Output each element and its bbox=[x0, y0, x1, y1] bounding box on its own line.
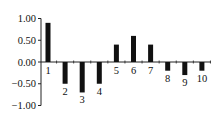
y-tick-label: −1.00 bbox=[12, 100, 36, 111]
bar bbox=[199, 62, 204, 71]
category-label: 10 bbox=[197, 73, 208, 84]
category-label: 7 bbox=[148, 65, 153, 76]
category-label: 2 bbox=[62, 86, 67, 97]
y-tick-label: 0.00 bbox=[18, 57, 36, 68]
bar bbox=[182, 62, 187, 75]
y-tick-label: −0.50 bbox=[12, 78, 36, 89]
y-axis: 1.000.500.00−0.50−1.00 bbox=[12, 13, 41, 111]
category-label: 8 bbox=[165, 73, 170, 84]
category-label: 1 bbox=[45, 65, 50, 76]
bars bbox=[46, 23, 205, 93]
bar bbox=[80, 62, 85, 92]
bar bbox=[165, 62, 170, 71]
category-label: 6 bbox=[131, 65, 136, 76]
category-label: 9 bbox=[182, 77, 187, 88]
bar bbox=[46, 23, 51, 62]
y-tick-label: 0.50 bbox=[18, 35, 36, 46]
category-label: 3 bbox=[80, 94, 85, 105]
category-label: 4 bbox=[97, 86, 103, 97]
bar-chart: 1.000.500.00−0.50−1.00 12345678910 bbox=[0, 0, 218, 115]
chart-canvas: 1.000.500.00−0.50−1.00 12345678910 bbox=[0, 0, 218, 115]
bar bbox=[114, 45, 119, 62]
category-label: 5 bbox=[114, 65, 119, 76]
bar bbox=[131, 36, 136, 62]
bar bbox=[63, 62, 68, 84]
bar bbox=[97, 62, 102, 84]
bar bbox=[148, 45, 153, 62]
y-tick-label: 1.00 bbox=[18, 13, 36, 24]
